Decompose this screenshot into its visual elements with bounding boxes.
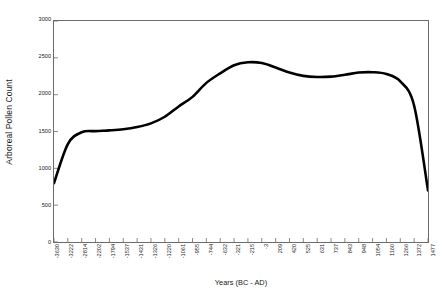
x-axis-tick-label: -215 [250, 244, 256, 255]
pollen-count-line [54, 62, 428, 190]
x-axis-tick-label: -3 [264, 244, 270, 249]
x-axis-tick-label: -1061 [181, 244, 187, 258]
pollen-count-chart-figure: Arboreal Pollen Count 300025002000150010… [0, 0, 446, 296]
x-axis-tick-label: -1431 [139, 244, 145, 258]
x-axis-tick-label: -744 [209, 244, 215, 255]
x-axis-title: Years (BC - AD) [53, 278, 429, 287]
y-axis-tick-label: 500 [21, 203, 51, 209]
x-axis-tick-label: -955 [195, 244, 201, 255]
x-axis-tick-label: 420 [292, 244, 298, 253]
x-axis-tick-label: 737 [334, 244, 340, 253]
data-line-svg [54, 21, 428, 242]
y-axis-tick-label: 2500 [21, 54, 51, 60]
plot-area [53, 20, 429, 243]
x-axis-tick-label: -3630 [55, 244, 61, 258]
x-axis-tick-label: 843 [348, 244, 354, 253]
x-axis-tick-label: -1537 [125, 244, 131, 258]
x-axis-tick-label: 1160 [390, 244, 396, 256]
x-axis-tick-label: -632 [223, 244, 229, 255]
x-axis-tick-label: -2202 [97, 244, 103, 258]
y-axis-title: Arboreal Pollen Count [0, 0, 18, 243]
x-axis-tick-label: -3222 [69, 244, 75, 258]
x-axis-tick-label: -1794 [111, 244, 117, 258]
x-axis-tick-label: 631 [320, 244, 326, 253]
y-axis-tick-labels: 300025002000150010005000 [19, 0, 51, 296]
x-axis-tick-label: 1372 [417, 244, 423, 256]
y-axis-tick-label: 3000 [21, 17, 51, 23]
x-axis-tick-labels: -3630-3222-2814-2202-1794-1537-1431-1326… [53, 244, 429, 276]
x-axis-tick-label: -1220 [167, 244, 173, 258]
x-axis-tick-label: 1477 [431, 244, 437, 256]
x-axis-tick-label: 1054 [376, 244, 382, 256]
x-axis-tick-label: -2814 [83, 244, 89, 258]
y-axis-tick-label: 1000 [21, 166, 51, 172]
x-axis-tick-label: -1326 [153, 244, 159, 258]
y-axis-tick-label: 1500 [21, 129, 51, 135]
y-axis-tick-label: 0 [21, 240, 51, 246]
y-axis-title-text: Arboreal Pollen Count [4, 79, 14, 164]
x-axis-tick-label: 1266 [404, 244, 410, 256]
x-axis-tick-label: 948 [362, 244, 368, 253]
x-axis-tick-label: 209 [278, 244, 284, 253]
x-axis-tick-label: 525 [306, 244, 312, 253]
y-axis-tick-label: 2000 [21, 92, 51, 98]
x-axis-tick-label: -321 [236, 244, 242, 255]
